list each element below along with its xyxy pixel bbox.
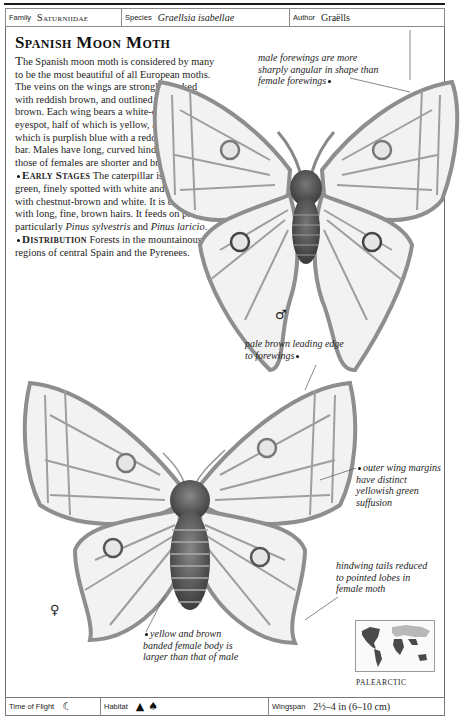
bullet-icon [17, 239, 20, 242]
author-cell: Author Graëlls [290, 9, 444, 26]
species-cell: Species Graellsia isabellae [122, 9, 290, 26]
distribution-heading: Distribution [22, 233, 87, 245]
caption-text: outer wing margins have distinct yellowi… [356, 462, 441, 508]
habitat-cell: Habitat ▲ ♠ [101, 698, 269, 715]
caption-text: pale brown leading edge to forewings [245, 338, 344, 361]
family-label: Family [9, 13, 31, 22]
bullet-icon [17, 175, 20, 178]
caption-text: male forewings are more sharply angular … [258, 52, 379, 86]
species-value: Graellsia isabellae [158, 12, 234, 23]
drop-letter: T [15, 53, 23, 68]
distribution-map [355, 620, 435, 672]
species-footer-bar: Time of Flight ☾ Habitat ▲ ♠ Wingspan 2½… [5, 697, 445, 716]
family-cell: Family Saturniidae [6, 9, 122, 26]
tree-icon: ♠ [148, 700, 158, 713]
caption-hindwing-tails: hindwing tails reduced to pointed lobes … [336, 560, 436, 595]
crescent-moon-icon: ☾ [62, 700, 72, 713]
leader-dot-icon [328, 80, 331, 83]
leader-dot-icon [358, 467, 361, 470]
species-header-bar: Family Saturniidae Species Graellsia isa… [5, 8, 445, 27]
caption-outer-margins: outer wing margins have distinct yellowi… [356, 462, 446, 508]
author-value: Graëlls [321, 12, 350, 23]
species-label: Species [125, 13, 152, 22]
mountain-icon: ▲ [136, 700, 144, 713]
leader-dot-icon [145, 633, 148, 636]
time-of-flight-label: Time of Flight [9, 702, 54, 711]
male-moth-illustration [150, 70, 462, 380]
food-plant-join: and [130, 221, 150, 232]
page-title: Spanish Moon Moth [15, 33, 170, 53]
caption-male-forewings: male forewings are more sharply angular … [258, 52, 388, 87]
map-region-label: PALEARCTIC [356, 678, 407, 687]
caption-female-body: yellow and brown banded female body is l… [143, 628, 243, 663]
male-symbol: ♂ [275, 307, 287, 322]
caption-leading-edge: pale brown leading edge to forewings [245, 338, 345, 361]
female-moth-illustration [20, 375, 360, 665]
female-symbol: ♀ [50, 602, 60, 617]
wingspan-label: Wingspan [272, 702, 305, 711]
food-plant-1: Pinus sylvestris [66, 221, 131, 232]
family-value: Saturniidae [37, 12, 88, 23]
early-stages-heading: Early Stages [22, 169, 90, 181]
author-label: Author [293, 13, 315, 22]
caption-text: yellow and brown banded female body is l… [143, 628, 238, 662]
wingspan-value: 2½–4 in (6–10 cm) [313, 701, 390, 712]
world-map-icon [356, 621, 434, 671]
leader-dot-icon [296, 355, 299, 358]
caption-text: hindwing tails reduced to pointed lobes … [336, 560, 427, 594]
top-rule [4, 3, 445, 5]
habitat-label: Habitat [104, 702, 128, 711]
time-of-flight-cell: Time of Flight ☾ [6, 698, 101, 715]
wingspan-cell: Wingspan 2½–4 in (6–10 cm) [269, 698, 444, 715]
